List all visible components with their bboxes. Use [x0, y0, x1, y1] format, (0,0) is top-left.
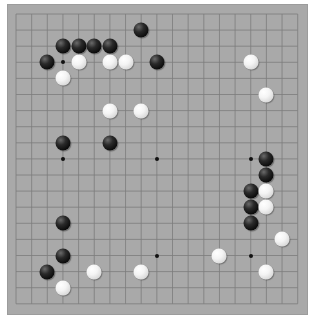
- white-stone[interactable]: [259, 87, 274, 102]
- black-stone[interactable]: [243, 216, 258, 231]
- black-stone[interactable]: [40, 264, 55, 279]
- star-point: [155, 157, 159, 161]
- white-stone[interactable]: [55, 280, 70, 295]
- black-stone[interactable]: [55, 39, 70, 54]
- white-stone[interactable]: [259, 264, 274, 279]
- black-stone[interactable]: [149, 55, 164, 70]
- star-point: [249, 254, 253, 258]
- black-stone[interactable]: [243, 200, 258, 215]
- black-stone[interactable]: [55, 248, 70, 263]
- star-point: [249, 157, 253, 161]
- white-stone[interactable]: [212, 248, 227, 263]
- black-stone[interactable]: [71, 39, 86, 54]
- black-stone[interactable]: [55, 216, 70, 231]
- star-point: [61, 157, 65, 161]
- black-stone[interactable]: [102, 39, 117, 54]
- white-stone[interactable]: [259, 184, 274, 199]
- white-stone[interactable]: [118, 55, 133, 70]
- white-stone[interactable]: [134, 264, 149, 279]
- star-point: [61, 60, 65, 64]
- black-stone[interactable]: [40, 55, 55, 70]
- white-stone[interactable]: [87, 264, 102, 279]
- white-stone[interactable]: [55, 71, 70, 86]
- white-stone[interactable]: [259, 200, 274, 215]
- black-stone[interactable]: [243, 184, 258, 199]
- black-stone[interactable]: [55, 135, 70, 150]
- white-stone[interactable]: [134, 103, 149, 118]
- black-stone[interactable]: [259, 151, 274, 166]
- black-stone[interactable]: [87, 39, 102, 54]
- white-stone[interactable]: [275, 232, 290, 247]
- white-stone[interactable]: [243, 55, 258, 70]
- star-point: [155, 254, 159, 258]
- black-stone[interactable]: [259, 168, 274, 183]
- white-stone[interactable]: [102, 103, 117, 118]
- white-stone[interactable]: [71, 55, 86, 70]
- black-stone[interactable]: [134, 23, 149, 38]
- black-stone[interactable]: [102, 135, 117, 150]
- white-stone[interactable]: [102, 55, 117, 70]
